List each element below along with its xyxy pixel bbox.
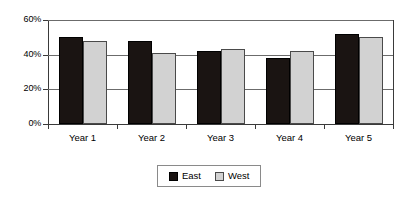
gridline-0pct (48, 124, 393, 125)
bar-west-year-5 (359, 37, 383, 124)
y-axis-tick-mark (43, 20, 48, 21)
bar-east-year-3 (197, 51, 221, 124)
gridline-60pct (48, 20, 393, 21)
bar-east-year-5 (335, 34, 359, 124)
bar-chart: 0%20%40%60% EastWest Year 1Year 2Year 3Y… (0, 0, 413, 200)
legend-swatch-east-icon (169, 172, 178, 181)
bar-west-year-2 (152, 53, 176, 124)
bar-east-year-1 (59, 37, 83, 124)
plot-right-border (393, 20, 394, 125)
y-axis-tick-mark (43, 89, 48, 90)
x-axis-category-label: Year 3 (186, 132, 255, 143)
x-axis-category-label: Year 5 (324, 132, 393, 143)
x-axis-category-label: Year 2 (117, 132, 186, 143)
bar-east-year-4 (266, 58, 290, 124)
y-axis-tick-label: 40% (1, 50, 41, 59)
x-axis-category-label: Year 1 (48, 132, 117, 143)
legend-label: West (228, 171, 249, 181)
chart-legend: EastWest (157, 165, 261, 187)
bar-east-year-2 (128, 41, 152, 124)
y-axis-tick-mark (43, 55, 48, 56)
bar-west-year-1 (83, 41, 107, 124)
legend-entry-east[interactable]: East (169, 171, 201, 181)
x-axis-tick-mark (393, 124, 394, 129)
y-axis-tick-label: 20% (1, 84, 41, 93)
y-axis-tick-labels: 0%20%40%60% (0, 0, 41, 200)
y-axis-tick-label: 60% (1, 15, 41, 24)
legend-swatch-west-icon (215, 172, 224, 181)
bar-west-year-4 (290, 51, 314, 124)
x-axis-category-label: Year 4 (255, 132, 324, 143)
x-axis-tick-mark (48, 124, 49, 129)
x-axis-tick-mark (324, 124, 325, 129)
y-axis-tick-label: 0% (1, 119, 41, 128)
bar-west-year-3 (221, 49, 245, 124)
x-axis-tick-mark (117, 124, 118, 129)
x-axis-tick-mark (186, 124, 187, 129)
legend-entry-west[interactable]: West (215, 171, 249, 181)
plot-area (48, 20, 393, 124)
x-axis-tick-mark (255, 124, 256, 129)
legend-label: East (182, 171, 201, 181)
